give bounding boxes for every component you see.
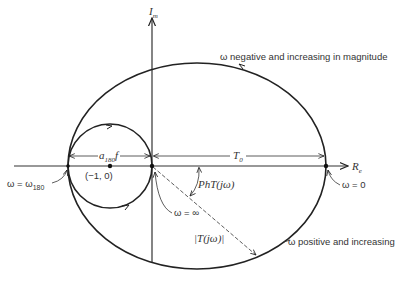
omega-180-label: ω = ω180 xyxy=(7,178,44,191)
critical-point-label: (−1, 0) xyxy=(85,170,113,181)
positive-branch-label: ω positive and increasing xyxy=(288,236,395,247)
omega-inf-label: ω = ∞ xyxy=(174,207,199,218)
omega-zero-label: ω = 0 xyxy=(342,179,366,190)
phase-label: PhT(jω) xyxy=(198,178,235,190)
real-axis-label: Re xyxy=(352,160,362,175)
imag-axis-label: Im xyxy=(149,5,158,20)
critical-point xyxy=(108,164,112,168)
nyquist-diagram xyxy=(0,0,410,293)
negative-branch-label: ω negative and increasing in magnitude xyxy=(220,51,387,62)
t0-label: T0 xyxy=(233,149,243,164)
a180f-label: a180f xyxy=(99,149,118,164)
magnitude-label: |T(jω)| xyxy=(194,232,224,244)
